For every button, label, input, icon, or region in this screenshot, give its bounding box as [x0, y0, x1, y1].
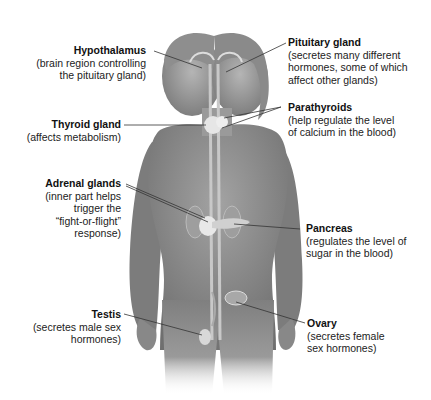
label-desc: (secretes male sex: [33, 321, 121, 334]
label-desc: (help regulate the level: [288, 114, 396, 127]
label-desc: (regulates the level of: [306, 235, 406, 248]
label-desc: hormones): [33, 333, 121, 346]
label-desc: of calcium in the blood): [288, 126, 396, 139]
label-title: Ovary: [307, 317, 385, 330]
label-hypothalamus: Hypothalamus (brain region controlling t…: [36, 44, 146, 82]
label-title: Pancreas: [306, 222, 406, 235]
label-ovary: Ovary (secretes female sex hormones): [307, 317, 385, 355]
label-desc: response): [45, 227, 121, 240]
label-testis: Testis (secretes male sex hormones): [33, 308, 121, 346]
label-parathyroids: Parathyroids (help regulate the level of…: [288, 101, 396, 139]
label-pituitary: Pituitary gland (secretes many different…: [288, 36, 408, 86]
ovary-shape: [225, 291, 247, 305]
label-desc: sugar in the blood): [306, 247, 406, 260]
label-thyroid: Thyroid gland (affects metabolism): [27, 118, 121, 143]
label-desc: (brain region controlling: [36, 57, 146, 70]
label-desc: sex hormones): [307, 342, 385, 355]
testis-shape: [199, 329, 211, 345]
label-title: Pituitary gland: [288, 36, 408, 49]
label-desc: affect other glands): [288, 74, 408, 87]
label-adrenal: Adrenal glands (inner part helps trigger…: [45, 177, 121, 240]
label-desc: (secretes female: [307, 330, 385, 343]
label-desc: “fight-or-flight”: [45, 215, 121, 228]
label-pancreas: Pancreas (regulates the level of sugar i…: [306, 222, 406, 260]
label-desc: (secretes many different: [288, 49, 408, 62]
label-title: Adrenal glands: [45, 177, 121, 190]
label-desc: hormones, some of which: [288, 61, 408, 74]
label-desc: (affects metabolism): [27, 131, 121, 144]
label-desc: trigger the: [45, 202, 121, 215]
label-desc: the pituitary gland): [36, 69, 146, 82]
label-title: Hypothalamus: [36, 44, 146, 57]
label-title: Testis: [33, 308, 121, 321]
label-title: Parathyroids: [288, 101, 396, 114]
label-title: Thyroid gland: [27, 118, 121, 131]
label-desc: (inner part helps: [45, 190, 121, 203]
